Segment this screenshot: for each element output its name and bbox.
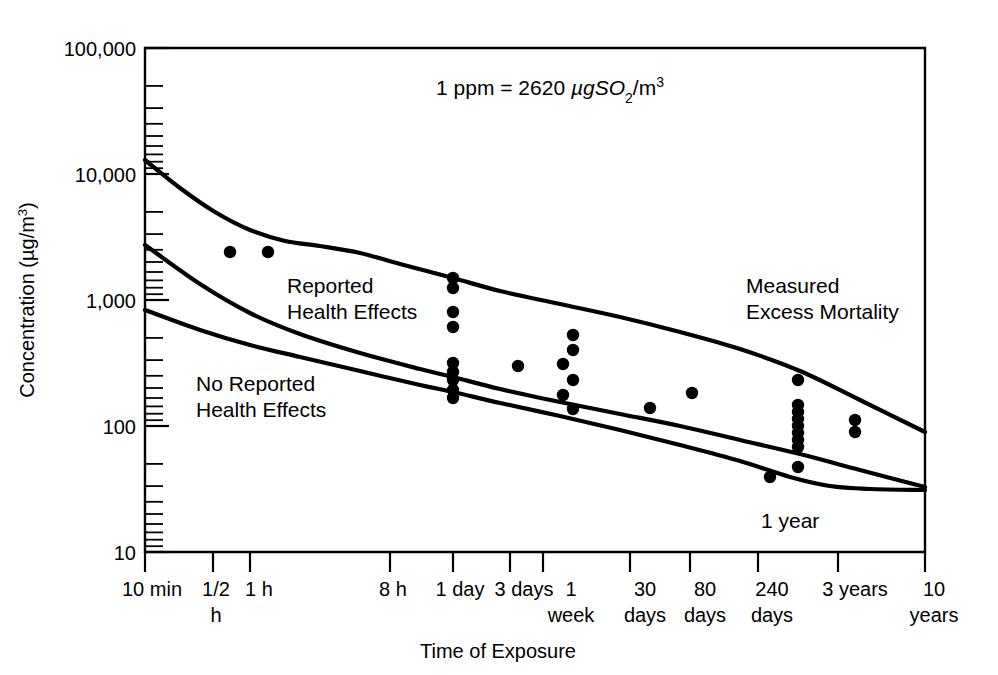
conversion-note-mu: µgSO [570, 76, 625, 99]
x-tick-label-80-days-unit: days [684, 604, 726, 626]
reported-health-effects-line1: Reported [287, 274, 373, 297]
data-point [557, 358, 569, 370]
x-tick-label-3-days: 3 days [495, 578, 554, 600]
data-point [792, 374, 804, 386]
x-tick-label-3-years: 3 years [822, 578, 888, 600]
x-tick-label-30-days-unit: days [624, 604, 666, 626]
data-point [567, 329, 579, 341]
conversion-note-sub2: 2 [625, 90, 633, 106]
x-tick-label-1-day: 1 day [436, 578, 485, 600]
data-point [512, 360, 524, 372]
data-point [447, 306, 459, 318]
y-tick-label-10: 10 [114, 542, 136, 564]
measured-excess-mortality-line1: Measured [746, 274, 839, 297]
x-tick-label-1-h: 1 h [245, 578, 273, 600]
y-axis-title: Concentration (µg/m3) [15, 202, 39, 398]
data-point [764, 471, 776, 483]
data-point [447, 392, 459, 404]
svg-text:Concentration (µg/m3): Concentration (µg/m3) [15, 202, 39, 398]
data-point [567, 403, 579, 415]
boundary-curves [145, 160, 925, 490]
conversion-note-part4: /m [633, 76, 656, 99]
x-axis-title: Time of Exposure [420, 640, 576, 662]
x-tick-label-30-days: 30 [634, 578, 656, 600]
conversion-note-sup3: 3 [656, 74, 664, 90]
x-tick-label-10-years-unit: years [910, 604, 959, 626]
data-point [567, 344, 579, 356]
x-tick-label-240-days-unit: days [751, 604, 793, 626]
y-tick-label-100: 100 [103, 416, 136, 438]
chart-svg: 100,000 10,000 1,000 100 10 Concentratio… [0, 0, 998, 675]
data-point [262, 246, 274, 258]
data-point [849, 426, 861, 438]
y-tick-label-100000: 100,000 [64, 38, 136, 60]
data-point [224, 246, 236, 258]
x-tick-label-80-days: 80 [694, 578, 716, 600]
data-point [557, 389, 569, 401]
no-reported-health-effects-line1: No Reported [196, 372, 315, 395]
data-point [792, 441, 804, 453]
x-axis-labels: 10 min 1/2 h 1 h 8 h 1 day 3 days 1 week… [122, 578, 958, 626]
data-point [686, 387, 698, 399]
x-tick-label-1-week-unit: week [547, 604, 596, 626]
x-tick-label-1-week: 1 [565, 578, 576, 600]
y-axis-labels: 100,000 10,000 1,000 100 10 [64, 38, 136, 564]
measured-excess-mortality-line2: Excess Mortality [746, 300, 899, 323]
y-axis-title-main: Concentration ( [16, 261, 38, 398]
y-tick-label-10000: 10,000 [75, 164, 136, 186]
y-axis-title-unit: µg/m [16, 216, 38, 261]
conversion-note: 1 ppm = 2620 µgSO2/m3 [436, 74, 664, 106]
y-axis-title-close: ) [16, 202, 38, 209]
data-point [644, 402, 656, 414]
x-tick-label-half-h: 1/2 [202, 578, 230, 600]
x-tick-label-240-days: 240 [755, 578, 788, 600]
data-point [792, 461, 804, 473]
x-tick-label-10-min: 10 min [122, 578, 182, 600]
y-axis-title-exponent: 3 [15, 209, 30, 216]
x-axis-ticks [145, 552, 925, 572]
y-axis-ticks [145, 48, 169, 552]
data-point [849, 414, 861, 426]
reported-health-effects-line2: Health Effects [287, 300, 417, 323]
data-point [447, 282, 459, 294]
data-point [447, 321, 459, 333]
y-tick-label-1000: 1,000 [86, 290, 136, 312]
sulfur-dioxide-exposure-chart: 100,000 10,000 1,000 100 10 Concentratio… [0, 0, 998, 675]
x-tick-label-half-h-unit: h [210, 604, 221, 626]
no-reported-health-effects-line2: Health Effects [196, 398, 326, 421]
x-tick-label-8-h: 8 h [379, 578, 407, 600]
conversion-note-part1: 1 ppm = 2620 [436, 76, 571, 99]
one-year-marker: 1 year [761, 509, 819, 532]
x-tick-label-10-years: 10 [923, 578, 945, 600]
data-point [567, 374, 579, 386]
